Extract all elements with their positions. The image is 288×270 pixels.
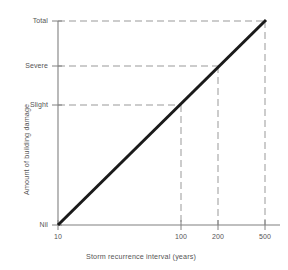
- chart-canvas: [0, 0, 288, 270]
- y-tick-label-total: Total: [10, 17, 48, 25]
- chart-figure: Total Severe Slight Nil 10 100 200 500 A…: [0, 0, 288, 270]
- x-tick-label-10: 10: [44, 233, 72, 241]
- y-tick-label-nil: Nil: [10, 221, 48, 229]
- x-tick-label-500: 500: [251, 233, 279, 241]
- y-tick-label-severe: Severe: [10, 62, 48, 70]
- x-tick-label-200: 200: [204, 233, 232, 241]
- x-tick-label-100: 100: [167, 233, 195, 241]
- data-line-damage: [58, 20, 266, 225]
- x-axis-title: Storm recurrence interval (years): [86, 252, 196, 261]
- y-axis-title: Amount of building damage: [22, 104, 31, 195]
